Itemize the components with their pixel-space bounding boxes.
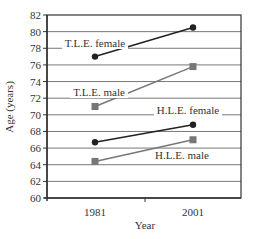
label-hle-male: H.L.E. male [155,149,209,162]
label-hle-female: H.L.E. female [154,104,222,117]
circle-marker [190,122,196,128]
square-marker [190,63,197,70]
x-axis-title: Year [135,219,156,231]
y-tick-label: 70 [30,109,42,121]
x-tick-2001: 2001 [182,206,204,218]
circle-marker [92,139,98,145]
series-line [95,125,193,142]
y-axis-title: Age (years) [3,81,16,133]
circle-marker [190,24,196,30]
svg-text:T.L.E. female: T.L.E. female [65,37,125,49]
y-tick-label: 64 [30,159,42,171]
y-tick-label: 82 [30,9,41,21]
circle-marker [92,53,98,59]
label-tle-male: T.L.E. male [70,85,128,98]
y-tick-label: 62 [30,175,41,187]
y-tick-label: 60 [30,192,42,204]
y-axis-ticks: 606264666870727476788082 [30,9,47,204]
square-marker [190,136,197,143]
svg-text:H.L.E. female: H.L.E. female [157,104,219,116]
y-tick-label: 66 [30,142,42,154]
line-chart: 606264666870727476788082 T.L.E. female T… [0,0,253,239]
svg-text:H.L.E. male: H.L.E. male [155,149,209,161]
square-marker [92,158,99,165]
y-tick-label: 68 [30,125,42,137]
y-tick-label: 76 [30,59,42,71]
y-tick-label: 78 [30,42,42,54]
x-tick-1981: 1981 [84,206,106,218]
label-tle-female: T.L.E. female [62,36,128,49]
y-tick-label: 80 [30,26,42,38]
svg-text:T.L.E. male: T.L.E. male [73,86,125,98]
square-marker [92,103,99,110]
y-tick-label: 72 [30,92,41,104]
y-tick-label: 74 [30,76,42,88]
